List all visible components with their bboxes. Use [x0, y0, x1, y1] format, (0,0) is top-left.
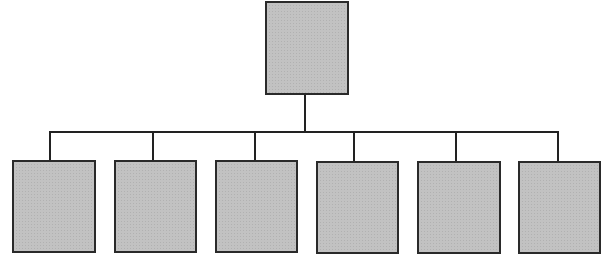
child-1-connector-line — [49, 131, 51, 161]
child-4-connector-line — [353, 131, 355, 162]
child-node-2 — [114, 160, 197, 253]
org-chart-diagram — [0, 0, 602, 272]
bus-connector-line — [50, 131, 559, 133]
child-node-4 — [316, 161, 399, 254]
child-3-connector-line — [254, 131, 256, 161]
root-connector-line — [304, 95, 306, 132]
child-node-6 — [518, 161, 601, 254]
child-node-5 — [417, 161, 501, 254]
child-node-3 — [215, 160, 298, 253]
child-2-connector-line — [152, 131, 154, 161]
child-6-connector-line — [557, 131, 559, 162]
root-node — [265, 1, 349, 95]
child-node-1 — [12, 160, 96, 253]
child-5-connector-line — [455, 131, 457, 162]
